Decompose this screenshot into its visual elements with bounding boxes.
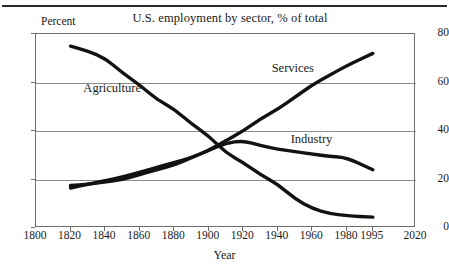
series-line-services xyxy=(71,53,373,185)
plot-area xyxy=(35,33,415,227)
chart-title: U.S. employment by sector, % of total xyxy=(95,11,365,26)
y-axis-unit-label: Percent xyxy=(41,15,75,27)
series-lines xyxy=(36,34,416,228)
y-tick-label-20: 20 xyxy=(419,173,449,185)
y-tick-label-40: 40 xyxy=(419,124,449,136)
x-tick-label-1995: 1995 xyxy=(350,230,394,242)
series-label-services: Services xyxy=(272,61,314,76)
series-label-agriculture: Agriculture xyxy=(83,81,141,96)
y-tick-label-80: 80 xyxy=(419,27,449,39)
y-tick-mark-0 xyxy=(31,227,35,228)
x-tick-label-2020: 2020 xyxy=(393,230,437,242)
x-axis-title: Year xyxy=(0,248,449,263)
y-tick-label-60: 60 xyxy=(419,76,449,88)
page-caption-fragment xyxy=(0,268,449,273)
employment-by-sector-chart: U.S. employment by sector, % of total Pe… xyxy=(0,0,449,273)
series-label-industry: Industry xyxy=(291,132,333,147)
